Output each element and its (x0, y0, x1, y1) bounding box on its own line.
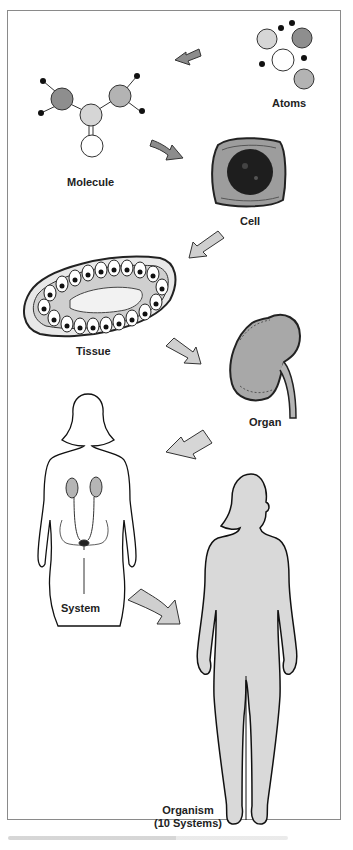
arrow-tissue-to-organ-icon (166, 338, 201, 364)
arrow-atoms-to-molecule-icon (175, 49, 201, 65)
arrow-system-to-organism-icon (128, 589, 180, 624)
label-system: System (61, 602, 100, 615)
label-organism: Organism (153, 804, 223, 817)
label-organ: Organ (249, 416, 281, 429)
organism-body-icon (197, 474, 297, 824)
atoms-icon (257, 20, 314, 89)
tissue-icon (24, 257, 175, 336)
organ-kidney-icon (230, 315, 300, 418)
label-cell: Cell (240, 215, 260, 228)
arrow-cell-to-tissue-icon (189, 231, 224, 258)
label-molecule: Molecule (67, 176, 114, 189)
label-organism-systems: (10 Systems) (146, 817, 230, 830)
levels-of-organization-diagram (0, 0, 353, 850)
arrow-molecule-to-cell-icon (150, 140, 183, 160)
label-atoms: Atoms (272, 97, 306, 110)
cell-icon (212, 138, 285, 206)
arrow-organ-to-system-icon (166, 430, 212, 459)
system-urinary-icon (38, 394, 136, 626)
figure-caption-illegible (8, 836, 288, 840)
label-tissue: Tissue (76, 345, 111, 358)
molecule-icon (38, 73, 145, 157)
